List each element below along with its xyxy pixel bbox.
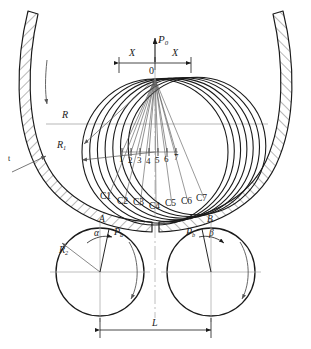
center-label-c4: C4 xyxy=(149,202,160,212)
station-number-6: 6 xyxy=(164,155,169,164)
center-label-c3: C3 xyxy=(133,198,144,208)
station-number-3: 3 xyxy=(137,156,142,165)
angle-beta-label: β xyxy=(209,229,214,239)
station-number-5: 5 xyxy=(155,156,160,165)
diagram-canvas xyxy=(0,0,311,349)
center-label-c6: C6 xyxy=(181,197,192,207)
angle-alpha-label: α xyxy=(94,229,99,239)
force-p0-label: P0 xyxy=(158,34,168,47)
rotation-arrow-workpiece xyxy=(46,60,48,104)
x-label-right: X xyxy=(172,48,178,58)
workpiece-right-arm xyxy=(159,11,292,232)
station-number-1: 1 xyxy=(119,155,124,164)
center-label-c7: C7 xyxy=(196,194,207,204)
center-label-c1: C1 xyxy=(100,192,111,202)
station-number-4: 4 xyxy=(146,157,151,166)
center-label-c5: C5 xyxy=(165,199,176,209)
origin-label: 0 xyxy=(149,66,154,76)
span-label: L xyxy=(152,318,158,328)
center-label-c2: C2 xyxy=(117,197,128,207)
x-label-left: X xyxy=(129,48,135,58)
radius-outer-label: R xyxy=(62,110,68,120)
bending-diagram: P0 X X 0 R R1 t 1 2 3 4 5 6 7 C1 C2 C3 C… xyxy=(0,0,311,349)
point-b-label: B xyxy=(207,215,213,225)
thickness-label: t xyxy=(8,155,10,163)
force-pb-label: Pb xyxy=(186,227,195,238)
radius-inner-label: R1 xyxy=(57,140,66,151)
point-a-label: A xyxy=(99,215,105,225)
station-number-2: 2 xyxy=(128,156,133,165)
roller-radius-label: R2 xyxy=(59,245,68,256)
station-number-7: 7 xyxy=(174,153,179,162)
force-pa-label: Pa xyxy=(114,227,123,238)
